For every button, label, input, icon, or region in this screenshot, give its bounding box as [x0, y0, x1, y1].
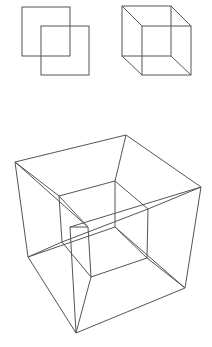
tesseract-figure — [15, 135, 201, 333]
square-front — [41, 26, 89, 75]
overlapping-squares-figure — [22, 7, 89, 75]
square-back — [22, 7, 70, 56]
cube-figure — [122, 6, 191, 75]
diagram-canvas — [0, 0, 212, 347]
